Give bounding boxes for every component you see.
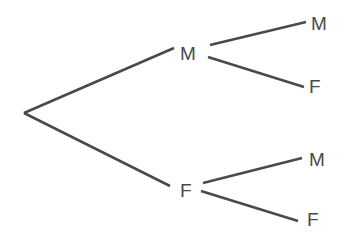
edge-F-to-F <box>201 191 298 221</box>
edge-F-to-M <box>203 158 302 183</box>
node-level1-bottom: F <box>180 180 192 201</box>
edge-M-to-M <box>210 22 306 45</box>
edge-root-to-F <box>24 113 170 186</box>
edge-root-to-M <box>24 48 174 113</box>
node-level2-top-top: M <box>311 13 327 34</box>
node-level2-top-bottom: F <box>309 76 321 97</box>
edge-M-to-F <box>208 57 304 87</box>
node-level2-bottom-top: M <box>309 149 325 170</box>
node-level1-top: M <box>180 43 196 64</box>
node-level2-bottom-bottom: F <box>307 209 319 230</box>
tree-diagram: M F M F M F <box>0 0 357 242</box>
